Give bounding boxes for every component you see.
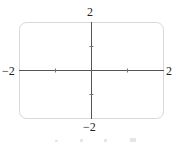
x-min-label: −2 bbox=[2, 65, 15, 77]
x-max-label: 2 bbox=[166, 65, 172, 77]
bottom-faint-marks bbox=[55, 138, 136, 142]
y-max-label: 2 bbox=[87, 6, 93, 18]
y-min-label: −2 bbox=[83, 121, 96, 133]
